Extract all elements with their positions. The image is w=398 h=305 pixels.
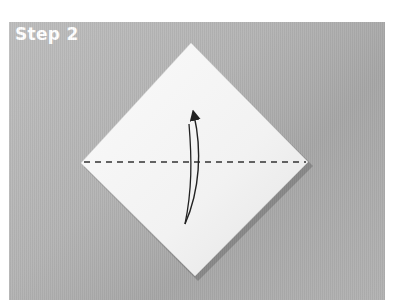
origami-diagram [0, 0, 398, 305]
paper-square [81, 43, 308, 276]
